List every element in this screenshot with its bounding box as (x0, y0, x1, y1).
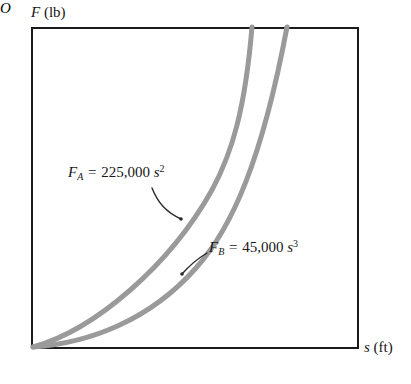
fb-coefficient: 45,000 (242, 239, 283, 255)
curve-label-fa: FA = 225,000 s2 (68, 165, 165, 180)
caption-fragment (14, 374, 194, 383)
leader-dot-fa (179, 217, 183, 221)
y-axis-symbol: F (31, 4, 40, 20)
leader-dot-fb (180, 272, 184, 276)
force-displacement-figure: F (lb) s (ft) O FA = 225,000 s2 FB = 45,… (0, 0, 411, 384)
y-axis-unit: (lb) (44, 4, 66, 20)
fb-symbol: F (209, 239, 218, 255)
leader-line-fa (152, 188, 181, 219)
fa-variable: s (154, 164, 160, 180)
x-axis-unit: (ft) (374, 339, 393, 355)
fa-symbol: F (68, 164, 77, 180)
fa-coefficient: 225,000 (101, 164, 150, 180)
curve-fa (33, 27, 252, 347)
fa-subscript: A (77, 171, 83, 182)
fb-exponent: 3 (293, 238, 298, 249)
x-axis-symbol: s (364, 339, 370, 355)
y-axis-label: F (lb) (31, 5, 66, 20)
fb-subscript: B (218, 246, 224, 257)
fa-exponent: 2 (160, 163, 165, 174)
fb-equals: = (228, 239, 238, 255)
plot-area (0, 0, 411, 384)
curve-label-fb: FB = 45,000 s3 (209, 240, 298, 255)
fa-equals: = (87, 164, 97, 180)
x-axis-label: s (ft) (364, 340, 393, 355)
plot-frame (32, 28, 358, 348)
